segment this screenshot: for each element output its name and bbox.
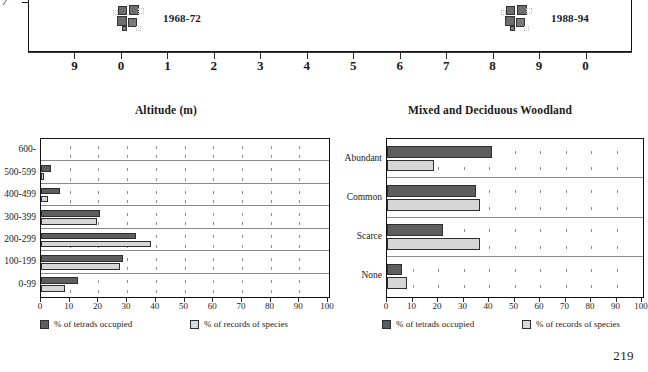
chart-gridline-dot — [213, 191, 214, 194]
chart-x-tick-label: 80 — [586, 301, 595, 311]
chart-altitude-legend: % of tetrads occupied % of records of sp… — [40, 319, 330, 329]
map-x-tick-label: 0 — [582, 58, 589, 74]
distribution-map-fragment: 7 1968-72 1988-94 901234567890 — [0, 0, 648, 80]
chart-gridline-dot — [185, 168, 186, 171]
chart-gridline-dot — [185, 155, 186, 158]
chart-gridline-dot — [242, 290, 243, 293]
chart-gridline-dot — [127, 191, 128, 194]
chart-woodland-plot-wrap: AbundantCommonScarceNone 010203040506070… — [332, 123, 648, 328]
chart-category-row — [41, 274, 329, 296]
legend-item-tetrads: % of tetrads occupied — [382, 319, 522, 329]
map-x-tick-label: 8 — [489, 58, 496, 74]
chart-gridline-dot — [489, 190, 490, 193]
map-left-axis-tick — [22, 2, 29, 3]
legend-label-tetrads: % of tetrads occupied — [396, 319, 474, 329]
chart-category-row — [387, 178, 643, 217]
chart-gridline-dot — [566, 285, 567, 288]
chart-x-tick-label: 20 — [93, 301, 102, 311]
chart-gridline-dot — [271, 245, 272, 248]
chart-altitude: Altitude (m) 600-500-599400-499300-39920… — [0, 104, 332, 328]
chart-gridline-dot — [489, 246, 490, 249]
chart-gridline-dot — [566, 269, 567, 272]
chart-gridline-dot — [127, 168, 128, 171]
chart-gridline-dot — [299, 267, 300, 270]
chart-gridline-dot — [299, 290, 300, 293]
chart-x-tick-label: 10 — [407, 301, 416, 311]
chart-woodland-x-axis: 0102030405060708090100 — [386, 298, 644, 316]
chart-gridline-dot — [185, 200, 186, 203]
chart-gridline-dot — [271, 200, 272, 203]
chart-bar — [41, 165, 51, 172]
chart-gridline-dot — [271, 290, 272, 293]
chart-gridline-dot — [185, 178, 186, 181]
chart-gridline-dot — [591, 207, 592, 210]
chart-gridline-dot — [127, 213, 128, 216]
map-tetrad-square — [524, 26, 529, 31]
chart-gridline-dot — [591, 246, 592, 249]
chart-gridline-dot — [540, 190, 541, 193]
chart-category-row — [41, 251, 329, 273]
chart-gridline-dot — [242, 267, 243, 270]
chart-bar — [41, 233, 136, 240]
chart-bar — [387, 264, 402, 276]
chart-gridline-dot — [156, 222, 157, 225]
legend-swatch-light-icon — [522, 320, 531, 329]
chart-gridline-dot — [464, 285, 465, 288]
map-tetrad-square — [526, 8, 532, 14]
chart-bar — [41, 277, 78, 284]
chart-woodland-y-labels: AbundantCommonScarceNone — [332, 138, 382, 298]
chart-gridline-dot — [299, 146, 300, 149]
chart-gridline-dot — [438, 269, 439, 272]
chart-gridline-dot — [489, 207, 490, 210]
chart-bar — [41, 196, 48, 203]
chart-category-row — [41, 161, 329, 183]
chart-x-tick-label: 10 — [64, 301, 73, 311]
legend-item-tetrads: % of tetrads occupied — [40, 319, 190, 329]
chart-gridline-dot — [185, 258, 186, 261]
chart-gridline-dot — [127, 178, 128, 181]
chart-gridline-dot — [156, 146, 157, 149]
chart-bar — [387, 185, 476, 197]
chart-gridline-dot — [70, 146, 71, 149]
chart-gridline-dot — [413, 269, 414, 272]
legend-label-tetrads: % of tetrads occupied — [54, 319, 132, 329]
chart-gridline-dot — [156, 235, 157, 238]
chart-gridlines — [387, 139, 643, 177]
chart-gridline-dot — [213, 178, 214, 181]
chart-y-axis-label: 100-199 — [4, 256, 36, 266]
chart-gridline-dot — [271, 168, 272, 171]
chart-gridline-dot — [156, 258, 157, 261]
chart-x-tick-label: 40 — [150, 301, 159, 311]
chart-x-tick-label: 0 — [384, 301, 389, 311]
chart-bar — [41, 173, 44, 180]
chart-gridline-dot — [127, 280, 128, 283]
map-tetrad-square — [138, 8, 144, 14]
chart-altitude-y-labels: 600-500-599400-499300-399200-299100-1990… — [0, 138, 36, 298]
chart-gridlines — [387, 257, 643, 296]
chart-gridline-dot — [213, 222, 214, 225]
chart-gridline-dot — [242, 280, 243, 283]
chart-gridline-dot — [242, 258, 243, 261]
chart-gridline-dot — [242, 155, 243, 158]
map-tetrad-square — [510, 26, 515, 31]
chart-gridline-dot — [98, 146, 99, 149]
chart-x-tick-label: 60 — [535, 301, 544, 311]
chart-gridline-dot — [213, 267, 214, 270]
chart-bar — [387, 224, 443, 236]
chart-gridline-dot — [156, 213, 157, 216]
chart-gridline-dot — [242, 146, 243, 149]
chart-gridline-dot — [515, 190, 516, 193]
chart-gridlines — [41, 139, 329, 160]
chart-gridline-dot — [540, 285, 541, 288]
legend-item-records: % of records of species — [190, 319, 288, 329]
chart-gridline-dot — [299, 213, 300, 216]
chart-gridline-dot — [540, 246, 541, 249]
chart-gridline-dot — [127, 146, 128, 149]
map-period-label-1988-94: 1988-94 — [551, 12, 589, 24]
chart-gridline-dot — [540, 229, 541, 232]
chart-category-row — [387, 218, 643, 257]
chart-gridline-dot — [540, 167, 541, 170]
chart-woodland-title: Mixed and Deciduous Woodland — [332, 104, 648, 116]
chart-x-tick-label: 20 — [433, 301, 442, 311]
legend-label-records: % of records of species — [536, 319, 620, 329]
